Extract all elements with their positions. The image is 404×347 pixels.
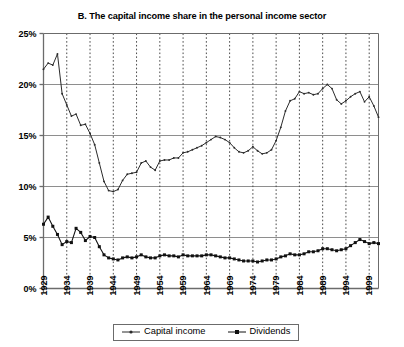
data-point-marker	[182, 253, 185, 256]
data-point-marker	[186, 254, 189, 257]
data-point-marker	[317, 93, 319, 95]
y-axis-tick-label: 15%	[18, 131, 36, 141]
data-point-marker	[187, 151, 189, 153]
data-point-marker	[121, 256, 124, 259]
data-point-marker	[98, 162, 100, 164]
data-point-marker	[130, 256, 133, 259]
data-point-marker	[79, 231, 82, 234]
data-point-marker	[80, 124, 82, 126]
data-point-marker	[219, 137, 221, 139]
data-point-marker	[289, 252, 292, 255]
data-point-marker	[145, 160, 147, 162]
data-point-marker	[75, 113, 77, 115]
legend-item-capital-income: Capital income	[122, 327, 206, 337]
data-point-marker	[149, 256, 152, 259]
data-point-marker	[112, 257, 115, 260]
y-axis-tick-label: 10%	[18, 182, 36, 192]
data-point-marker	[363, 240, 366, 243]
data-point-marker	[368, 242, 371, 245]
data-point-marker	[243, 152, 245, 154]
x-axis-tick-label: 1964	[202, 275, 212, 295]
data-point-marker	[140, 253, 143, 256]
data-point-marker	[163, 253, 166, 256]
data-point-marker	[289, 100, 291, 102]
data-point-marker	[122, 179, 124, 181]
vertical-gridlines	[67, 34, 369, 289]
data-point-marker	[237, 258, 240, 261]
data-point-marker	[261, 153, 263, 155]
legend-label-capital-income: Capital income	[144, 327, 206, 336]
data-point-marker	[279, 255, 282, 258]
data-point-marker	[373, 105, 375, 107]
data-point-marker	[159, 160, 161, 162]
axis-ticks	[40, 34, 370, 293]
y-axis-tick-labels: 0%5%10%15%20%25%	[18, 29, 36, 294]
data-point-marker	[354, 93, 356, 95]
chart-plot-area: 0%5%10%15%20%25% 19291934193919441949195…	[0, 0, 404, 320]
data-point-marker	[93, 236, 96, 239]
data-point-marker	[61, 243, 64, 246]
x-axis-tick-label: 1989	[318, 275, 328, 295]
data-point-marker	[196, 254, 199, 257]
data-point-marker	[103, 180, 105, 182]
data-point-marker	[154, 169, 156, 171]
data-point-marker	[131, 172, 133, 174]
chart-axes	[44, 34, 379, 289]
data-point-marker	[321, 247, 324, 250]
data-point-marker	[303, 252, 306, 255]
data-point-marker	[298, 253, 301, 256]
data-point-marker	[340, 248, 343, 251]
data-point-marker	[377, 242, 380, 245]
data-point-marker	[280, 126, 282, 128]
data-point-marker	[378, 116, 380, 118]
data-point-marker	[256, 260, 259, 263]
legend-item-dividends: Dividends	[228, 327, 291, 337]
x-axis-tick-label: 1999	[364, 275, 374, 295]
data-point-marker	[168, 254, 171, 257]
data-point-marker	[135, 255, 138, 258]
data-point-marker	[168, 159, 170, 161]
data-point-marker	[228, 256, 231, 259]
data-point-marker	[247, 150, 249, 152]
data-point-marker	[345, 100, 347, 102]
data-point-marker	[359, 91, 361, 93]
data-point-marker	[102, 253, 105, 256]
data-point-marker	[89, 235, 92, 238]
data-point-marker	[293, 253, 296, 256]
data-point-marker	[94, 144, 96, 146]
data-point-marker	[252, 146, 254, 148]
x-axis-tick-label: 1984	[295, 275, 305, 295]
data-point-marker	[61, 93, 63, 95]
data-point-marker	[84, 239, 87, 242]
data-point-marker	[349, 244, 352, 247]
data-point-marker	[57, 53, 59, 55]
x-axis-tick-label: 1939	[85, 275, 95, 295]
x-axis-tick-label: 1979	[271, 275, 281, 295]
x-axis-tick-label: 1944	[108, 275, 118, 295]
data-point-marker	[51, 225, 54, 228]
legend-marker-filled-square-icon	[228, 327, 246, 337]
data-point-marker	[275, 140, 277, 142]
data-point-marker	[312, 94, 314, 96]
data-point-marker	[266, 152, 268, 154]
data-point-marker	[261, 259, 264, 262]
data-point-marker	[284, 254, 287, 257]
x-axis-tick-label: 1954	[155, 275, 165, 295]
data-point-marker	[144, 255, 147, 258]
data-point-marker	[200, 254, 203, 257]
data-point-marker	[350, 96, 352, 98]
data-point-marker	[47, 62, 49, 64]
data-point-marker	[172, 254, 175, 257]
data-point-marker	[242, 259, 245, 262]
x-axis-tick-label: 1994	[341, 275, 351, 295]
data-point-marker	[108, 190, 110, 192]
data-point-marker	[201, 145, 203, 147]
data-point-marker	[265, 258, 268, 261]
series-line	[44, 54, 379, 192]
data-point-marker	[177, 255, 180, 258]
data-point-marker	[238, 151, 240, 153]
data-point-marker	[173, 157, 175, 159]
data-point-marker	[210, 253, 213, 256]
data-point-marker	[66, 104, 68, 106]
data-point-marker	[247, 259, 250, 262]
